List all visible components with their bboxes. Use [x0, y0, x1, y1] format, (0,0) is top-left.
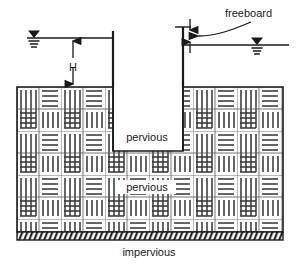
soil-mass [17, 87, 283, 232]
impervious-hatch-band [17, 232, 283, 240]
impervious-base-layer [17, 232, 283, 240]
freeboard-label: freeboard [225, 7, 272, 19]
diagram-canvas: H freeboard pervious pervious impervious [0, 0, 298, 265]
impervious-label: impervious [122, 246, 176, 258]
pervious-lower-label: pervious [126, 181, 168, 193]
water-triangle-icon [28, 31, 40, 39]
freeboard-dimension: freeboard [175, 7, 272, 53]
freeboard-leader-line [199, 22, 251, 36]
head-dimension: H [69, 41, 77, 84]
soil-hatch-fill [17, 87, 283, 232]
water-triangle-icon [251, 38, 263, 46]
seepage-cross-section-figure: H freeboard pervious pervious impervious [0, 0, 298, 265]
head-label: H [69, 61, 77, 73]
water-surfaces [27, 38, 289, 45]
pervious-upper-label: pervious [126, 131, 168, 143]
